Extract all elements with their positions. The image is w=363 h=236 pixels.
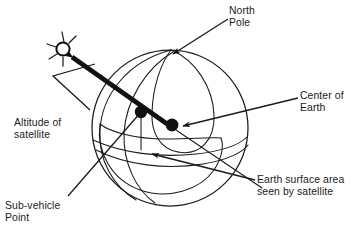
orbit-trace-line <box>176 130 262 188</box>
satellite-earth-diagram: North Pole Center of Earth Altitude of s… <box>0 0 363 236</box>
label-sub-vehicle-point: Sub-vehicle Point <box>5 200 60 225</box>
satellite-antenna-up <box>62 32 64 42</box>
earth-surface-area-leader <box>152 154 255 180</box>
coverage-cap-upper-edge <box>100 124 221 139</box>
satellite-antenna-downleft <box>49 54 57 59</box>
label-earth-surface-area: Earth surface area seen by satellite <box>257 174 344 199</box>
satellite-antenna-upright <box>69 36 76 43</box>
north-pole-leader <box>173 19 228 54</box>
satellite-antenna-left <box>47 44 56 47</box>
label-altitude-of-satellite: Altitude of satellite <box>14 117 61 142</box>
meridian-left-inner-arc <box>124 52 173 203</box>
center-of-earth-leader <box>183 98 298 126</box>
label-north-pole: North Pole <box>229 5 255 30</box>
sub-vehicle-leader-line <box>68 112 141 196</box>
center-of-earth-dot <box>166 119 179 132</box>
meridian-right-arc <box>171 50 214 153</box>
satellite-body-icon <box>56 42 69 55</box>
sub-vehicle-point-dot <box>135 106 147 118</box>
label-center-of-earth: Center of Earth <box>300 90 344 115</box>
satellite-group <box>47 32 76 66</box>
